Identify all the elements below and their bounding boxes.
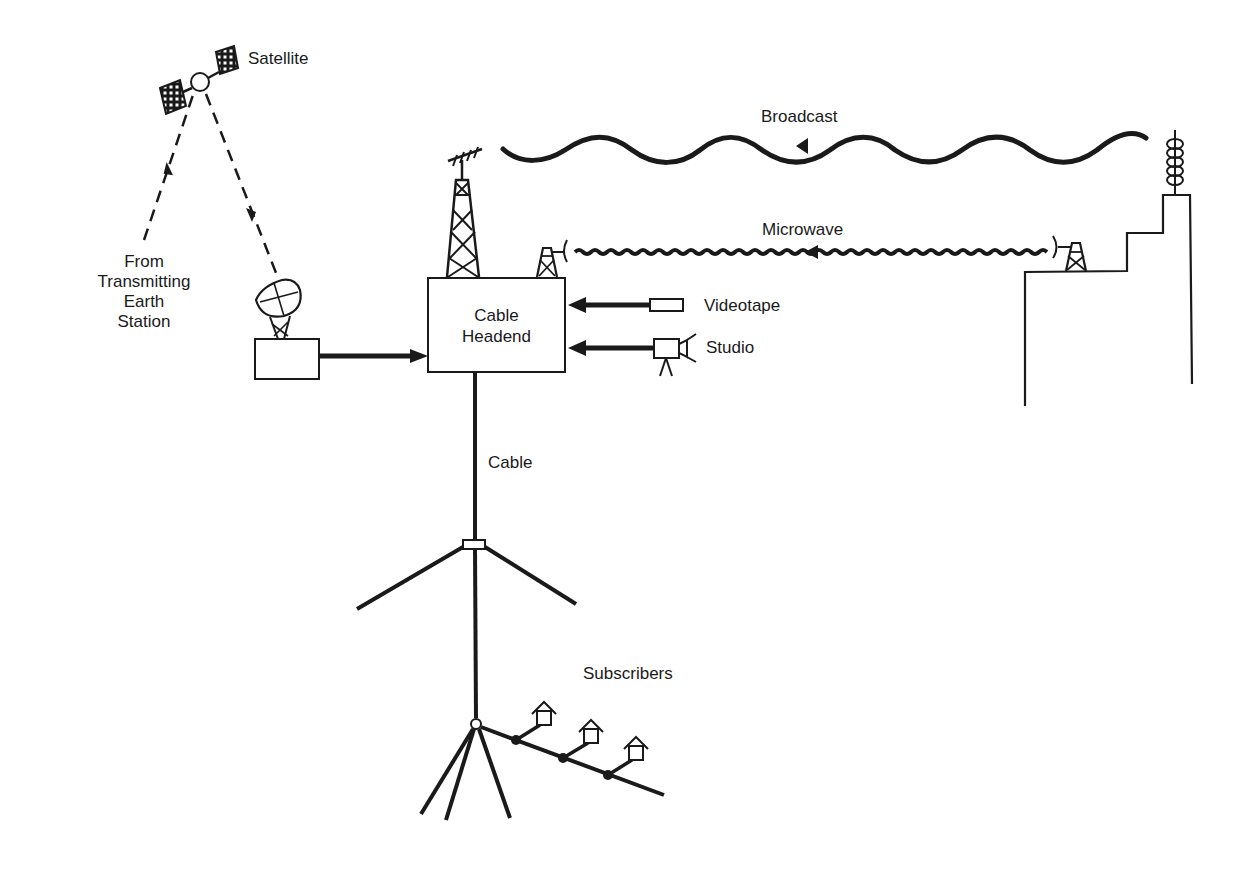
cable-trunk	[357, 372, 664, 820]
tap-node	[471, 719, 481, 729]
earth-station-label-line: Station	[86, 312, 202, 332]
uplink-dashed-arrow	[144, 92, 194, 240]
camera-icon	[654, 334, 696, 376]
satellite-icon	[160, 46, 238, 114]
receiver-box	[255, 339, 319, 379]
house-icon	[579, 720, 603, 743]
receiver-to-headend-arrow	[319, 349, 428, 363]
transmitter-building	[1025, 130, 1192, 406]
microwave-label: Microwave	[762, 220, 843, 240]
earth-station-label: From Transmitting Earth Station	[86, 252, 202, 332]
house-icon	[532, 702, 556, 725]
broadcast-wave	[503, 133, 1146, 162]
headend-label-line: Headend	[428, 326, 565, 347]
headend-label: Cable Headend	[428, 305, 565, 347]
subscriber-drops	[511, 702, 648, 780]
earth-station-label-line: Transmitting	[86, 272, 202, 292]
studio-label: Studio	[706, 338, 754, 358]
downlink-dashed-arrow	[206, 94, 278, 278]
subscribers-label: Subscribers	[583, 664, 673, 684]
cable-system-diagram	[0, 0, 1245, 873]
splitter-icon	[463, 540, 485, 549]
studio-input	[568, 334, 696, 376]
earth-station-label-line: From	[86, 252, 202, 272]
headend-label-line: Cable	[428, 305, 565, 326]
microwave-wave	[575, 245, 1047, 259]
broadcast-label: Broadcast	[761, 107, 838, 127]
videotape-input	[568, 297, 683, 313]
cable-label: Cable	[488, 453, 532, 473]
satellite-dish-icon	[256, 280, 301, 339]
satellite-label: Satellite	[248, 49, 308, 69]
broadcast-receive-tower-icon	[447, 147, 482, 277]
videotape-label: Videotape	[704, 296, 780, 316]
videotape-icon	[650, 299, 683, 311]
house-icon	[624, 737, 648, 760]
microwave-tower-icon	[537, 240, 567, 277]
earth-station-label-line: Earth	[86, 292, 202, 312]
